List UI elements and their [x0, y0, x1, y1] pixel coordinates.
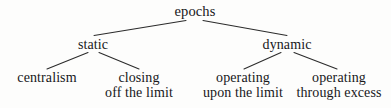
- node-label-line2: off the limit: [105, 85, 173, 100]
- edge-epochs-static: [94, 21, 186, 36]
- edge-static-closing: [99, 53, 139, 70]
- node-label-line1: centralism: [17, 70, 76, 85]
- node-dynamic: dynamic: [263, 37, 312, 52]
- node-label-line2: through excess: [297, 85, 382, 100]
- edge-epochs-dynamic: [203, 21, 287, 36]
- node-leaf-operating-through-excess: operating through excess: [297, 70, 382, 100]
- node-static: static: [78, 37, 108, 52]
- node-label-line1: closing: [118, 70, 159, 85]
- tree-diagram: epochs static dynamic centralism closing…: [0, 0, 391, 108]
- node-leaf-closing-off-the-limit: closing off the limit: [105, 70, 173, 100]
- node-label: static: [78, 37, 108, 52]
- node-label-line2: upon the limit: [203, 85, 283, 100]
- edge-static-centralism: [47, 53, 88, 70]
- node-leaf-operating-upon-the-limit: operating upon the limit: [203, 70, 283, 100]
- node-label-line1: operating: [216, 70, 270, 85]
- edge-dynamic-through: [294, 53, 337, 70]
- node-label: epochs: [175, 3, 216, 19]
- node-label-line1: operating: [312, 70, 366, 85]
- node-root-epochs: epochs: [175, 4, 216, 19]
- node-label: dynamic: [263, 37, 312, 52]
- node-leaf-centralism: centralism: [17, 70, 76, 85]
- edge-dynamic-upon: [244, 53, 281, 70]
